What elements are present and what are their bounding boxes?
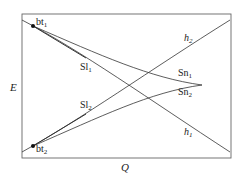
label-Sn1: Sn1 [178, 68, 192, 80]
label-h1-sub: 1 [189, 131, 193, 139]
label-h2-sub: 2 [189, 37, 193, 45]
point-bt1 [31, 24, 35, 28]
label-Sn1-text: Sn [178, 67, 189, 78]
label-Sl2-sub: 2 [88, 104, 92, 112]
label-Sn2-text: Sn [178, 86, 189, 97]
label-bt1-sub: 1 [44, 21, 48, 29]
axis-label-y: E [10, 82, 17, 93]
label-bt1: bt1 [36, 17, 47, 29]
curve-Sl1 [33, 26, 86, 58]
axis-label-x: Q [121, 162, 129, 173]
label-h2: h2 [184, 33, 193, 45]
label-Sn2-sub: 2 [189, 91, 193, 99]
curve-Sl2 [33, 114, 86, 146]
point-bt2 [31, 144, 35, 148]
label-Sl2: Sl2 [80, 100, 92, 112]
label-bt2: bt2 [36, 144, 47, 156]
label-Sn1-sub: 1 [189, 72, 193, 80]
curve-Sn2 [33, 85, 202, 146]
curve-h2 [22, 20, 230, 152]
label-bt2-text: bt [36, 143, 44, 154]
label-h1: h1 [184, 127, 193, 139]
label-bt2-sub: 2 [44, 148, 48, 156]
curve-Sn1 [33, 26, 202, 85]
label-bt1-text: bt [36, 16, 44, 27]
label-Sl1: Sl1 [80, 62, 92, 74]
plot-frame [22, 14, 231, 158]
label-Sl1-sub: 1 [88, 66, 92, 74]
label-Sn2: Sn2 [178, 87, 192, 99]
